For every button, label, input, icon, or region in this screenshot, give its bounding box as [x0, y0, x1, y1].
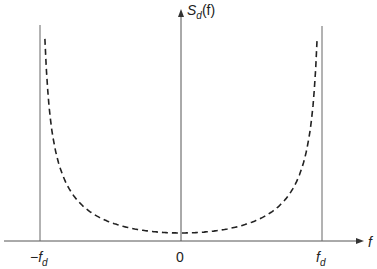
tick-pos-fd: fd [316, 250, 325, 268]
x-axis-label: f [368, 235, 372, 249]
x-axis-arrow-icon [356, 238, 364, 244]
tick-neg-fd: −fd [30, 250, 48, 268]
chart-canvas [0, 0, 377, 269]
y-axis-arrow-icon [178, 9, 184, 17]
tick-zero: 0 [176, 250, 184, 264]
y-axis-label: Sd(f) [187, 3, 215, 21]
